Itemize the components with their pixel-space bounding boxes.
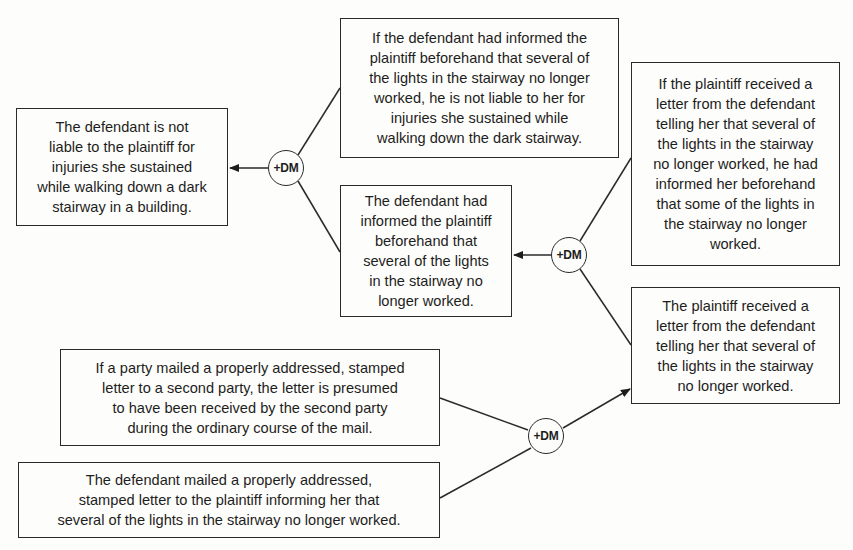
fact-letter-received-box: The plaintiff received a letter from the… xyxy=(631,287,840,404)
conclusion-text: The defendant is not liable to the plain… xyxy=(37,117,207,217)
rule-letter-received-text: If the plaintiff received a letter from … xyxy=(653,74,818,254)
rule-mailbox-text: If a party mailed a properly addressed, … xyxy=(95,358,404,438)
conclusion-box: The defendant is not liable to the plain… xyxy=(16,108,228,226)
fact-informed-text: The defendant had informed the plaintiff… xyxy=(360,191,491,311)
dm-label: +DM xyxy=(534,429,559,443)
rule-notice-text: If the defendant had informed the plaint… xyxy=(369,28,590,148)
dm-connector-2: +DM xyxy=(551,237,587,273)
fact-mailed-text: The defendant mailed a properly addresse… xyxy=(57,470,400,530)
rule-mailbox-box: If a party mailed a properly addressed, … xyxy=(60,349,440,446)
fact-informed-box: The defendant had informed the plaintiff… xyxy=(340,185,512,317)
dm-connector-3: +DM xyxy=(528,418,564,454)
rule-letter-received-box: If the plaintiff received a letter from … xyxy=(631,62,840,266)
rule-notice-box: If the defendant had informed the plaint… xyxy=(340,18,619,158)
dm-label: +DM xyxy=(274,161,299,175)
fact-letter-received-text: The plaintiff received a letter from the… xyxy=(656,296,815,396)
dm-connector-1: +DM xyxy=(268,150,304,186)
dm-label: +DM xyxy=(557,248,582,262)
fact-mailed-box: The defendant mailed a properly addresse… xyxy=(18,462,440,538)
